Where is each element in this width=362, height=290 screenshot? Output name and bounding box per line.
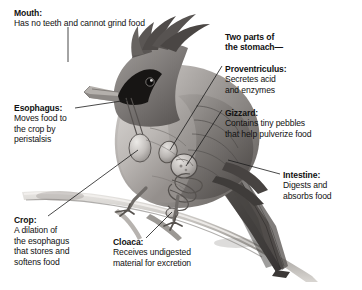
label-proventriculus-line-1: Secretes acid <box>225 74 287 84</box>
label-stomach-heading: Two parts of <box>225 32 283 42</box>
label-crop-line-2: the esophagus <box>14 236 69 246</box>
label-mouth-heading: Mouth: <box>14 8 145 18</box>
label-cloaca-line-1: Receives undigested <box>113 247 191 257</box>
label-gizzard-line-1: Contains tiny pebbles <box>225 118 311 128</box>
label-cloaca-line-2: material for excretion <box>113 258 191 268</box>
label-gizzard-heading: Gizzard: <box>225 108 311 118</box>
label-mouth-line-1: Has no teeth and cannot grind food <box>14 18 145 28</box>
label-crop-heading: Crop: <box>14 215 69 225</box>
label-gizzard: Gizzard: Contains tiny pebbles that help… <box>225 108 311 139</box>
label-cloaca: Cloaca: Receives undigested material for… <box>113 237 191 268</box>
label-crop-line-4: softens food <box>14 257 69 267</box>
label-proventriculus-line-2: and enzymes <box>225 85 287 95</box>
label-stomach-line-1: the stomach— <box>225 42 283 52</box>
diagram-canvas: Mouth: Has no teeth and cannot grind foo… <box>0 0 362 290</box>
label-crop-line-1: A dilation of <box>14 225 69 235</box>
label-intestine-line-2: absorbs food <box>283 191 332 201</box>
label-proventriculus-heading: Proventriculus: <box>225 64 287 74</box>
label-intestine-line-1: Digests and <box>283 180 332 190</box>
label-intestine-heading: Intestine: <box>283 170 332 180</box>
label-intestine: Intestine: Digests and absorbs food <box>283 170 332 201</box>
label-crop-line-3: that stores and <box>14 246 69 256</box>
label-stomach: Two parts of the stomach— <box>225 32 283 53</box>
label-proventriculus: Proventriculus: Secretes acid and enzyme… <box>225 64 287 95</box>
label-esophagus-line-3: peristalsis <box>14 134 67 144</box>
label-mouth: Mouth: Has no teeth and cannot grind foo… <box>14 8 145 29</box>
label-esophagus-line-2: the crop by <box>14 124 67 134</box>
label-esophagus-heading: Esophagus: <box>14 103 67 113</box>
label-gizzard-line-2: that help pulverize food <box>225 129 311 139</box>
label-cloaca-heading: Cloaca: <box>113 237 191 247</box>
label-crop: Crop: A dilation of the esophagus that s… <box>14 215 69 267</box>
label-esophagus-line-1: Moves food to <box>14 113 67 123</box>
label-esophagus: Esophagus: Moves food to the crop by per… <box>14 103 67 145</box>
